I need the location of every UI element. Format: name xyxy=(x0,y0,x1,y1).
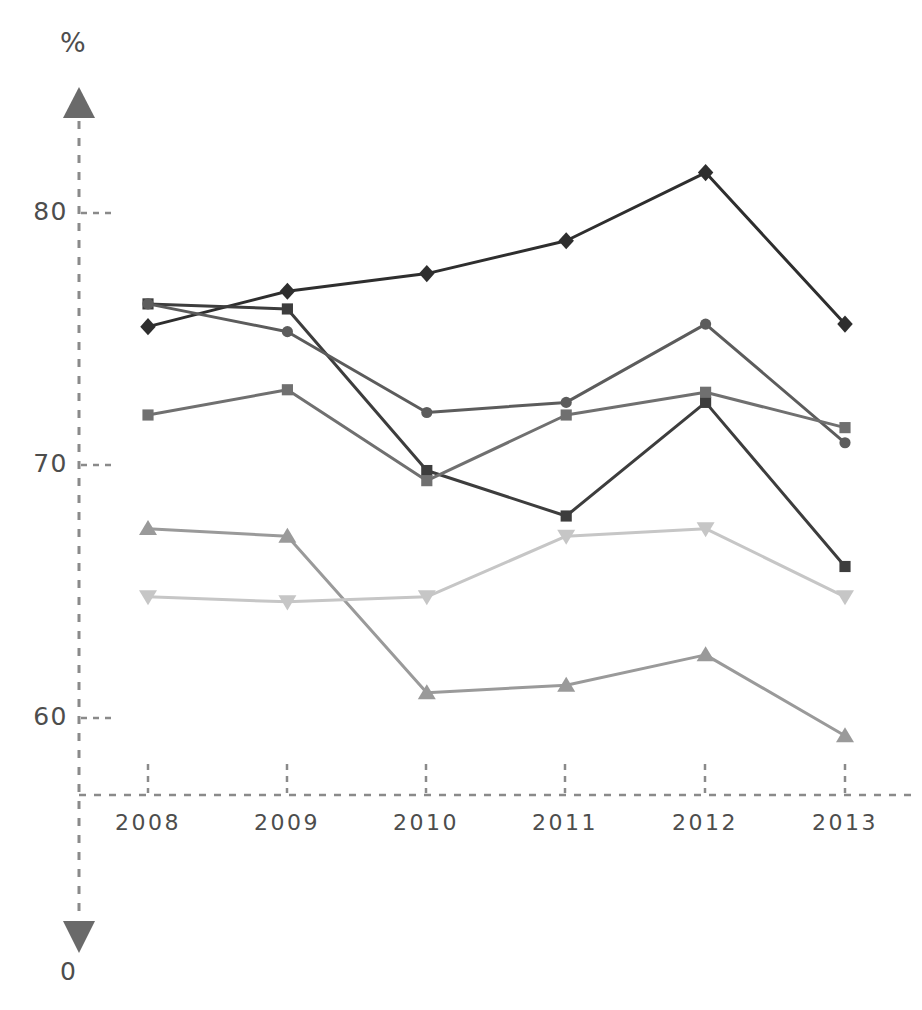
series-line xyxy=(148,529,845,602)
y-axis-arrow-down-icon xyxy=(63,921,95,953)
series-line xyxy=(148,173,845,327)
data-point-marker xyxy=(836,590,854,605)
x-tick-label-2009: 2009 xyxy=(227,810,347,835)
data-point-marker xyxy=(561,510,572,521)
data-point-marker xyxy=(282,303,293,314)
data-point-marker xyxy=(836,727,854,742)
data-point-marker xyxy=(142,409,153,420)
x-tick-label-2008: 2008 xyxy=(88,810,208,835)
x-tick-label-2012: 2012 xyxy=(645,810,765,835)
data-point-marker xyxy=(839,561,850,572)
y-tick-label-80: 80 xyxy=(8,197,68,226)
series-series-3-circle xyxy=(142,298,850,448)
data-point-marker xyxy=(282,384,293,395)
data-series-layer xyxy=(139,164,854,742)
data-point-marker xyxy=(839,422,850,433)
data-point-marker xyxy=(700,387,711,398)
series-series-1-diamond xyxy=(140,164,852,335)
data-point-marker xyxy=(558,232,573,249)
x-axis-ticks xyxy=(148,764,845,793)
data-point-marker xyxy=(697,646,715,661)
data-point-marker xyxy=(419,265,434,282)
series-line xyxy=(148,390,845,481)
line-chart: % 80 70 60 2008 2009 2010 2011 2012 2013… xyxy=(0,0,922,1010)
series-line xyxy=(148,304,845,567)
y-axis-ticks xyxy=(81,213,113,718)
series-line xyxy=(148,304,845,443)
data-point-marker xyxy=(140,318,155,335)
data-point-marker xyxy=(282,326,293,337)
series-series-4-gray-square xyxy=(142,384,850,486)
series-series-5-triangle xyxy=(139,520,854,742)
series-line xyxy=(148,529,845,736)
data-point-marker xyxy=(561,409,572,420)
data-point-marker xyxy=(280,283,295,300)
data-point-marker xyxy=(839,437,850,448)
x-tick-label-2011: 2011 xyxy=(505,810,625,835)
y-tick-label-70: 70 xyxy=(8,449,68,478)
data-point-marker xyxy=(142,298,153,309)
data-point-marker xyxy=(421,475,432,486)
chart-plot-area xyxy=(0,0,922,1010)
x-tick-label-2013: 2013 xyxy=(785,810,905,835)
data-point-marker xyxy=(700,319,711,330)
data-point-marker xyxy=(561,397,572,408)
y-axis-arrow-up-icon xyxy=(63,87,95,118)
y-tick-label-60: 60 xyxy=(8,702,68,731)
x-tick-label-2010: 2010 xyxy=(366,810,486,835)
series-series-2-dark-square xyxy=(142,298,850,572)
data-point-marker xyxy=(700,397,711,408)
y-axis-zero-label: 0 xyxy=(60,957,76,986)
y-axis-unit-label: % xyxy=(60,27,86,58)
data-point-marker xyxy=(421,407,432,418)
data-point-marker xyxy=(421,465,432,476)
